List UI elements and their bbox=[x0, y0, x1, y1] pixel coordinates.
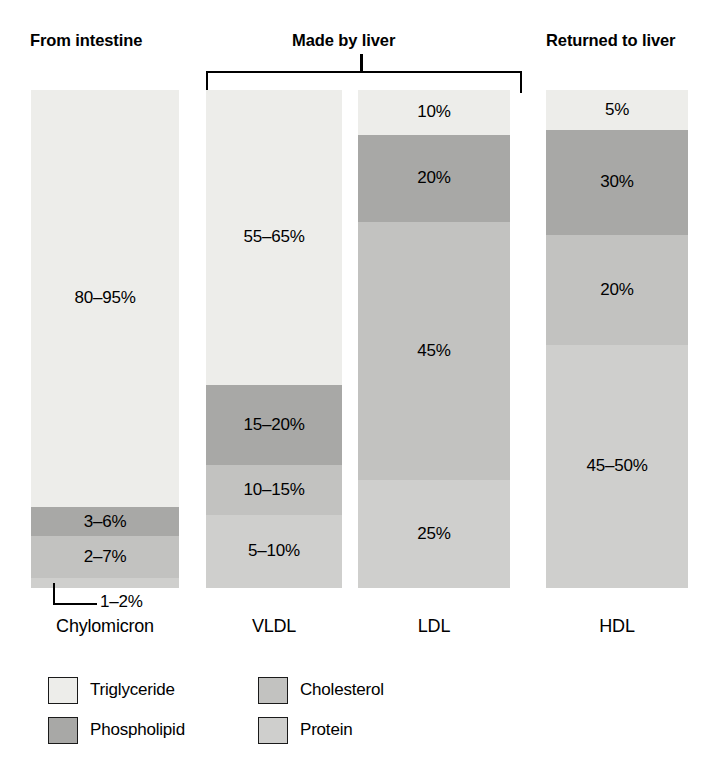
segment-hdl-triglyceride: 5% bbox=[546, 90, 688, 130]
segment-chylomicron-cholesterol: 2–7% bbox=[31, 536, 179, 578]
legend: Triglyceride Cholesterol Phospholipid Pr… bbox=[48, 670, 478, 750]
segment-label: 20% bbox=[600, 280, 633, 300]
segment-label: 25% bbox=[417, 524, 450, 544]
legend-item-triglyceride: Triglyceride bbox=[48, 677, 258, 704]
legend-swatch-icon bbox=[258, 677, 288, 704]
segment-label: 20% bbox=[417, 168, 450, 188]
segment-ldl-protein: 25% bbox=[358, 480, 510, 588]
legend-label: Protein bbox=[300, 720, 352, 740]
segment-vldl-protein: 5–10% bbox=[206, 515, 342, 588]
legend-swatch-icon bbox=[48, 677, 78, 704]
group-heading-returned-to-liver: Returned to liver bbox=[546, 30, 686, 51]
segment-ldl-cholesterol: 45% bbox=[358, 222, 510, 480]
segment-chylomicron-phospholipid: 3–6% bbox=[31, 507, 179, 536]
bar-ldl: 10% 20% 45% 25% bbox=[358, 90, 510, 588]
segment-label: 45–50% bbox=[586, 456, 647, 476]
segment-ldl-triglyceride: 10% bbox=[358, 90, 510, 135]
segment-label: 10% bbox=[417, 102, 450, 122]
legend-label: Cholesterol bbox=[300, 680, 384, 700]
category-label-vldl: VLDL bbox=[206, 616, 342, 637]
legend-item-protein: Protein bbox=[258, 717, 468, 744]
legend-swatch-icon bbox=[48, 717, 78, 744]
category-label-hdl: HDL bbox=[546, 616, 688, 637]
segment-hdl-cholesterol: 20% bbox=[546, 235, 688, 345]
segment-label: 10–15% bbox=[243, 480, 304, 500]
segment-label: 80–95% bbox=[74, 288, 135, 308]
segment-vldl-phospholipid: 15–20% bbox=[206, 385, 342, 465]
segment-label: 2–7% bbox=[84, 547, 127, 567]
category-label-ldl: LDL bbox=[358, 616, 510, 637]
legend-swatch-icon bbox=[258, 717, 288, 744]
segment-ldl-phospholipid: 20% bbox=[358, 135, 510, 222]
segment-label: 55–65% bbox=[243, 227, 304, 247]
legend-label: Phospholipid bbox=[90, 720, 185, 740]
segment-vldl-triglyceride: 55–65% bbox=[206, 90, 342, 385]
segment-chylomicron-triglyceride: 80–95% bbox=[31, 90, 179, 507]
bar-hdl: 5% 30% 20% 45–50% bbox=[546, 90, 688, 588]
legend-item-phospholipid: Phospholipid bbox=[48, 717, 258, 744]
segment-hdl-protein: 45–50% bbox=[546, 345, 688, 588]
group-heading-from-intestine: From intestine bbox=[30, 30, 142, 51]
group-heading-made-by-liver: Made by liver bbox=[292, 30, 395, 51]
chylomicron-protein-callout-label: 1–2% bbox=[100, 592, 143, 612]
category-label-chylomicron: Chylomicron bbox=[31, 616, 179, 637]
chylomicron-protein-leader-line bbox=[53, 583, 97, 605]
bar-vldl: 55–65% 15–20% 10–15% 5–10% bbox=[206, 90, 342, 588]
legend-label: Triglyceride bbox=[90, 680, 175, 700]
segment-label: 3–6% bbox=[84, 512, 127, 532]
segment-label: 45% bbox=[417, 341, 450, 361]
bar-chylomicron: 80–95% 3–6% 2–7% bbox=[31, 90, 179, 588]
segment-label: 15–20% bbox=[243, 415, 304, 435]
segment-vldl-cholesterol: 10–15% bbox=[206, 465, 342, 515]
segment-label: 30% bbox=[600, 172, 633, 192]
segment-label: 5% bbox=[605, 100, 629, 120]
legend-item-cholesterol: Cholesterol bbox=[258, 677, 468, 704]
segment-hdl-phospholipid: 30% bbox=[546, 130, 688, 235]
segment-label: 5–10% bbox=[248, 541, 300, 561]
lipoprotein-composition-figure: From intestine Made by liver Returned to… bbox=[0, 0, 712, 776]
